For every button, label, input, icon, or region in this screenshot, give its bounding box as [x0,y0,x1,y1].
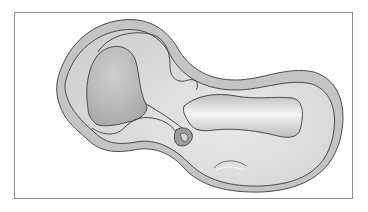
anatomical-illustration [0,0,368,212]
knot-structure [174,128,192,146]
